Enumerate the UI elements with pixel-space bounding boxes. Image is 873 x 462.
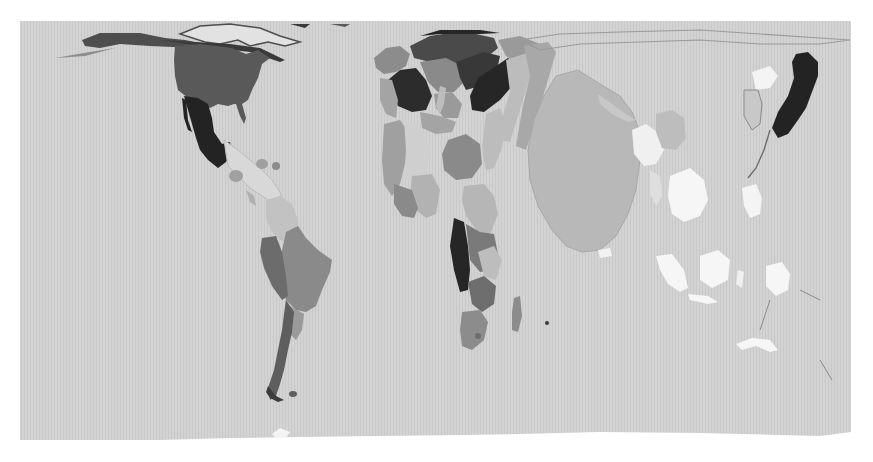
region-lesotho bbox=[475, 333, 481, 339]
world-cartogram-map bbox=[0, 0, 873, 462]
region-guatemala bbox=[229, 170, 243, 182]
region-caribbean-2 bbox=[272, 162, 280, 170]
region-falklands bbox=[289, 391, 297, 397]
region-mauritius bbox=[545, 321, 549, 325]
region-caribbean-1 bbox=[256, 159, 268, 169]
